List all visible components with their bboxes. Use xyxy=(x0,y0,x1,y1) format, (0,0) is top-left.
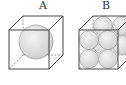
cube-a xyxy=(9,16,63,69)
cube-b xyxy=(79,16,126,69)
cube-diagram xyxy=(0,0,126,85)
